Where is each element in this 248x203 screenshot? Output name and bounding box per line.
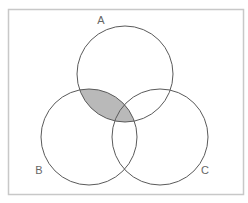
label-b: B <box>35 164 42 176</box>
label-c: C <box>201 164 209 176</box>
venn-diagram: A B C <box>0 0 248 203</box>
label-a: A <box>97 14 105 26</box>
circle-c <box>112 89 208 185</box>
